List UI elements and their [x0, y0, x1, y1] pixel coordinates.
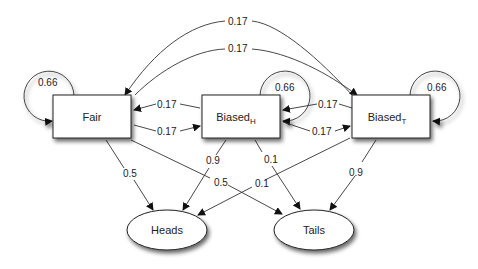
state-biased-t: BiasedT — [352, 95, 430, 138]
svg-text:0.17: 0.17 — [228, 43, 248, 54]
edge-fair-to-biased-h: 0.17 — [134, 125, 200, 137]
svg-text:0.1: 0.1 — [264, 154, 278, 165]
state-fair: Fair — [53, 95, 131, 138]
svg-text:0.5: 0.5 — [123, 168, 137, 179]
arc-fair-to-biased-t: 0.17 — [135, 43, 357, 95]
svg-text:0.17: 0.17 — [157, 126, 177, 137]
hmm-diagram: 0.66 0.66 0.66 0.17 0.17 0.17 0.17 0.17 … — [0, 0, 478, 269]
arc-biased-t-to-fair: 0.17 — [125, 16, 352, 95]
svg-text:0.17: 0.17 — [312, 126, 332, 137]
edge-biased-t-to-biased-h: 0.17 — [283, 99, 352, 110]
self-loop-fair-label: 0.66 — [38, 77, 58, 88]
emission-heads: Heads — [127, 210, 207, 250]
edge-biased-h-to-biased-t: 0.17 — [283, 122, 350, 137]
svg-text:0.17: 0.17 — [157, 99, 177, 110]
emission-tails: Tails — [274, 210, 354, 250]
edge-biased-h-to-fair: 0.17 — [134, 99, 200, 110]
state-biased-h: BiasedH — [202, 95, 280, 138]
svg-text:0.9: 0.9 — [349, 167, 363, 178]
svg-text:0.17: 0.17 — [228, 16, 248, 27]
svg-text:0.9: 0.9 — [206, 155, 220, 166]
svg-text:Tails: Tails — [303, 224, 326, 236]
svg-text:0.1: 0.1 — [255, 178, 269, 189]
svg-text:Heads: Heads — [151, 224, 183, 236]
svg-text:0.5: 0.5 — [214, 177, 228, 188]
edge-biased-t-tails: 0.9 — [330, 140, 376, 210]
edge-fair-tails: 0.5 — [131, 140, 282, 214]
svg-text:Fair: Fair — [83, 111, 102, 123]
self-loop-biased-h-label: 0.66 — [275, 82, 295, 93]
svg-text:0.17: 0.17 — [318, 99, 338, 110]
edge-fair-heads: 0.5 — [106, 140, 153, 210]
edge-biased-h-tails: 0.1 — [255, 140, 300, 209]
edge-biased-h-heads: 0.9 — [183, 140, 226, 210]
self-loop-biased-t-label: 0.66 — [427, 82, 447, 93]
